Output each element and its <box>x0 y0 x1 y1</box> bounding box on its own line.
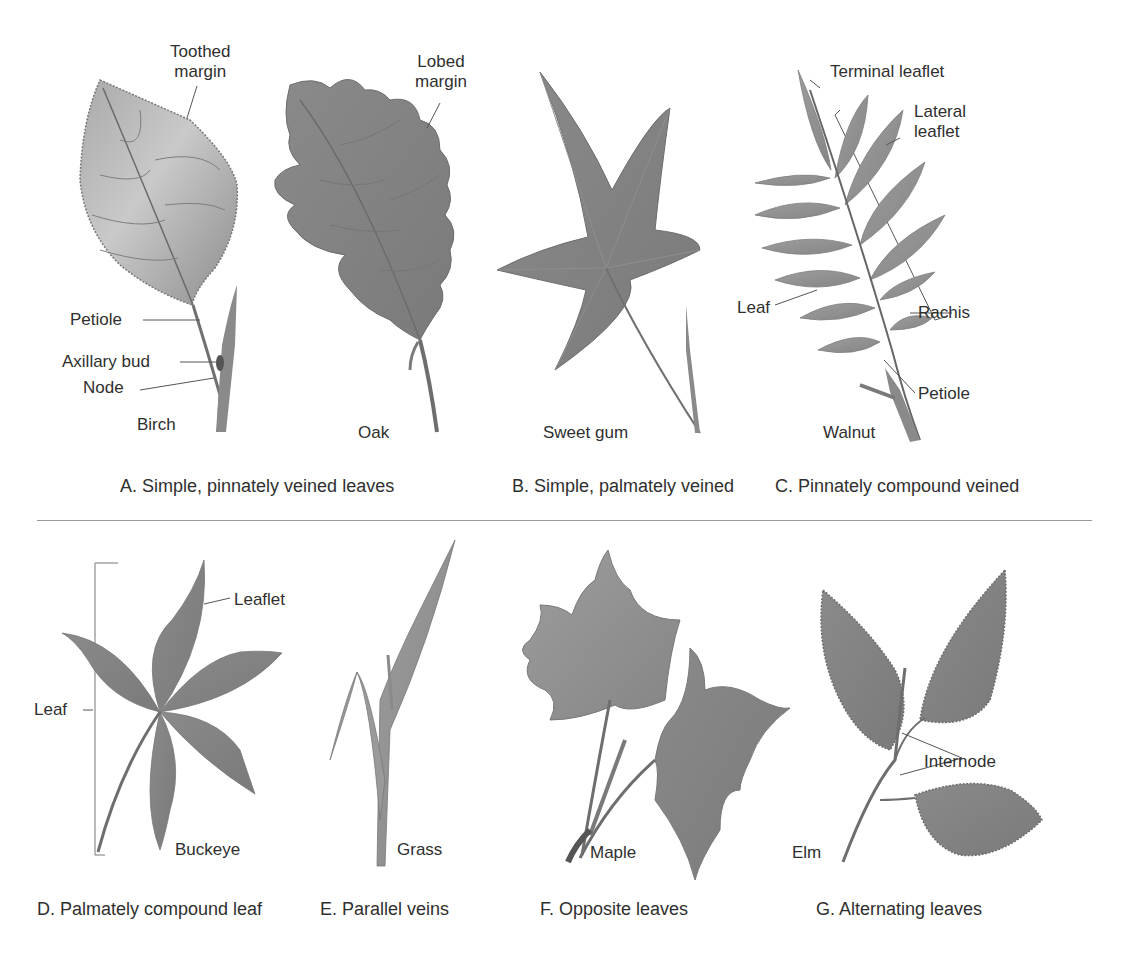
caption-b: B. Simple, palmately veined <box>512 476 734 497</box>
label-line: margin <box>170 62 231 82</box>
specimen-sweet-gum: Sweet gum <box>543 423 628 443</box>
elm-leaves <box>821 570 1042 862</box>
label-leaf-walnut: Leaf <box>737 298 770 318</box>
caption-c: C. Pinnately compound veined <box>775 476 1019 497</box>
caption-e: E. Parallel veins <box>320 899 449 920</box>
label-lobed-margin: Lobed margin <box>415 52 467 91</box>
oak-leaf <box>275 79 454 432</box>
label-terminal-leaflet: Terminal leaflet <box>830 62 944 82</box>
specimen-buckeye: Buckeye <box>175 840 240 860</box>
label-leaf-buckeye: Leaf <box>34 700 67 720</box>
label-line: margin <box>415 72 467 92</box>
label-leaflet-buckeye: Leaflet <box>234 590 285 610</box>
specimen-grass: Grass <box>397 840 442 860</box>
section-divider <box>37 520 1092 521</box>
label-lateral-leaflet: Lateral leaflet <box>914 102 966 141</box>
label-line: leaflet <box>914 122 966 142</box>
label-line: Lobed <box>415 52 467 72</box>
specimen-walnut: Walnut <box>823 423 875 443</box>
oak-leader-line <box>427 103 440 128</box>
caption-f: F. Opposite leaves <box>540 899 688 920</box>
grass-blades <box>330 540 455 866</box>
caption-g: G. Alternating leaves <box>816 899 982 920</box>
sweet-gum-leaf <box>497 72 700 433</box>
maple-leaves <box>523 550 791 880</box>
label-petiole-birch: Petiole <box>70 310 122 330</box>
caption-d: D. Palmately compound leaf <box>37 899 262 920</box>
label-internode: Internode <box>924 752 996 772</box>
label-line: Lateral <box>914 102 966 122</box>
label-toothed-margin: Toothed margin <box>170 42 231 81</box>
label-axillary-bud: Axillary bud <box>62 352 150 372</box>
specimen-elm: Elm <box>792 843 821 863</box>
specimen-oak: Oak <box>358 423 389 443</box>
caption-a: A. Simple, pinnately veined leaves <box>120 476 394 497</box>
label-line: Toothed <box>170 42 231 62</box>
label-node: Node <box>83 378 124 398</box>
label-rachis: Rachis <box>918 303 970 323</box>
specimen-maple: Maple <box>590 843 636 863</box>
specimen-birch: Birch <box>137 415 176 435</box>
label-petiole-walnut: Petiole <box>918 384 970 404</box>
